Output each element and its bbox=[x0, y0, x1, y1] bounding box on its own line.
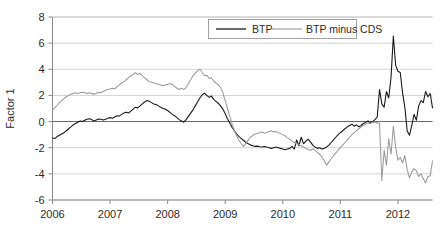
y-tick-label-4: 4 bbox=[38, 63, 44, 75]
chart-figure: 86420-2-4-6 2006200720082009201020112012… bbox=[0, 0, 443, 234]
chart-legend: BTPBTP minus CDS bbox=[209, 20, 383, 39]
x-tick-label-2007: 2007 bbox=[98, 208, 122, 220]
x-tick-label-2012: 2012 bbox=[386, 208, 410, 220]
y-tick-label-2: 2 bbox=[38, 89, 44, 101]
axis-lines bbox=[53, 17, 433, 200]
data-series bbox=[53, 36, 433, 183]
grid-lines bbox=[53, 17, 433, 200]
legend-label-0: BTP bbox=[252, 23, 272, 35]
legend-label-1: BTP minus CDS bbox=[306, 23, 382, 35]
y-tick-labels: 86420-2-4-6 bbox=[35, 11, 45, 206]
x-tick-labels: 2006200720082009201020112012 bbox=[40, 208, 410, 220]
x-tick-label-2008: 2008 bbox=[155, 208, 179, 220]
line-chart: 86420-2-4-6 2006200720082009201020112012… bbox=[0, 0, 443, 234]
x-tick-label-2009: 2009 bbox=[213, 208, 237, 220]
y-axis-label: Factor 1 bbox=[4, 88, 16, 128]
y-tick-label-6: 6 bbox=[38, 37, 44, 49]
y-tick-label-8: 8 bbox=[38, 11, 44, 23]
y-axis-title: Factor 1 bbox=[4, 88, 16, 128]
y-tick-label--6: -6 bbox=[35, 194, 45, 206]
x-tick-label-2010: 2010 bbox=[271, 208, 295, 220]
series-line-btp bbox=[53, 36, 433, 150]
series-line-btp-minus-cds bbox=[53, 69, 433, 183]
y-tick-label-0: 0 bbox=[38, 116, 44, 128]
x-tick-label-2011: 2011 bbox=[329, 208, 353, 220]
y-tick-label--4: -4 bbox=[35, 168, 45, 180]
y-tick-label--2: -2 bbox=[35, 142, 45, 154]
x-tick-label-2006: 2006 bbox=[40, 208, 64, 220]
